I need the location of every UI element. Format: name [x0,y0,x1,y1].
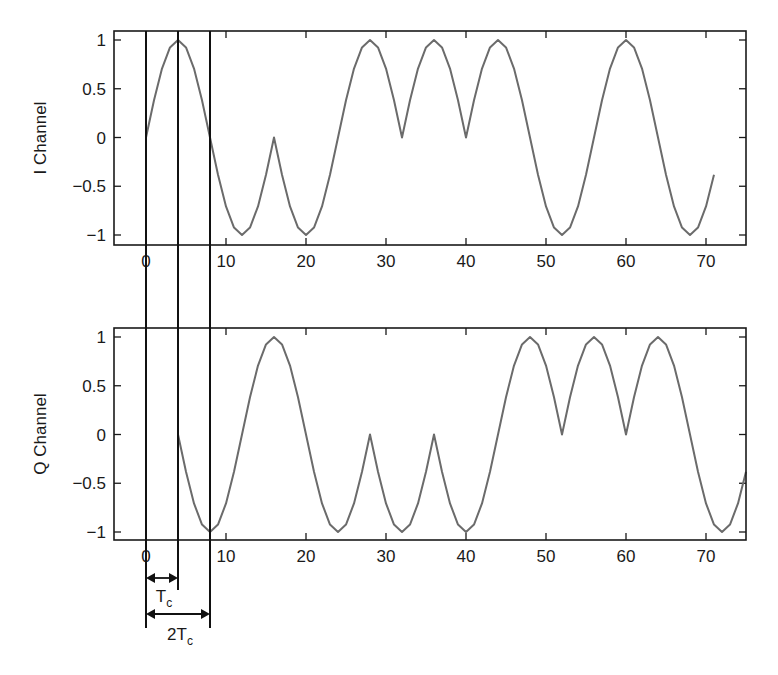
x-tick-label: 50 [537,547,556,566]
x-tick-label: 30 [377,252,396,271]
i-channel-ylabel: I Channel [31,102,50,175]
q-channel-ylabel: Q Channel [31,393,50,474]
q-channel-plot: 01020304050607010.50−0.5−1 Q Channel [31,328,746,566]
x-tick-label: 10 [217,547,236,566]
x-tick-label: 70 [697,252,716,271]
y-tick-label: 1 [97,31,106,50]
two-tc-arrow [146,609,210,619]
x-tick-label: 50 [537,252,556,271]
tc-arrow [146,573,178,583]
x-tick-label: 60 [617,547,636,566]
y-tick-label: 1 [97,328,106,347]
q-channel-ticks: 01020304050607010.50−0.5−1 [72,328,746,566]
y-tick-label: −0.5 [72,177,106,196]
q-channel-curve [178,337,746,532]
tc-label: Tc [156,587,172,610]
y-tick-label: 0 [97,129,106,148]
x-tick-label: 20 [297,252,316,271]
y-tick-label: −1 [87,226,106,245]
i-channel-plot: 01020304050607010.50−0.5−1 I Channel [31,31,746,271]
i-channel-axes-frame [114,31,746,245]
x-tick-label: 70 [697,547,716,566]
q-channel-axes-frame [114,328,746,540]
i-channel-ticks: 01020304050607010.50−0.5−1 [72,31,746,271]
y-tick-label: 0 [97,426,106,445]
y-tick-label: −0.5 [72,474,106,493]
y-tick-label: 0.5 [82,377,106,396]
x-tick-label: 30 [377,547,396,566]
x-tick-label: 60 [617,252,636,271]
x-tick-label: 40 [457,252,476,271]
y-tick-label: 0.5 [82,80,106,99]
x-tick-label: 20 [297,547,316,566]
timing-annotations: Tc2Tc [146,31,210,648]
x-tick-label: 10 [217,252,236,271]
figure: 01020304050607010.50−0.5−1 I Channel 010… [0,0,778,675]
two-tc-label: 2Tc [167,625,193,648]
x-tick-label: 40 [457,547,476,566]
i-channel-curve [146,40,714,235]
y-tick-label: −1 [87,523,106,542]
